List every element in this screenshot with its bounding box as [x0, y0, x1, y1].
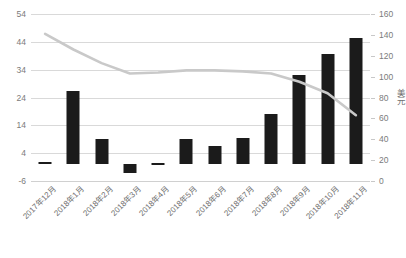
bar-slot — [88, 14, 116, 181]
y-axis-left-tick: 14 — [4, 121, 26, 130]
bar-slot — [172, 14, 200, 181]
y-axis-right-tick: 160 — [379, 10, 393, 19]
bar-slot — [229, 14, 257, 181]
x-axis-labels: 2017年12月2018年1月2018年2月2018年3月2018年4月2018… — [31, 183, 370, 258]
y-axis-right-tick: 40 — [379, 135, 388, 144]
y-axis-right-tick-mark — [371, 77, 375, 78]
bar-slot — [116, 14, 144, 181]
y-axis-left-tick: 44 — [4, 38, 26, 47]
y-axis-right-title: 美元 — [396, 89, 406, 107]
bar — [39, 162, 52, 165]
y-axis-left-tick: 4 — [4, 149, 26, 158]
y-axis-left-tick: 24 — [4, 94, 26, 103]
y-axis-right-tick-mark — [371, 14, 375, 15]
bar-slot — [31, 14, 59, 181]
bar-slot — [144, 14, 172, 181]
y-axis-right-tick-mark — [371, 56, 375, 57]
y-axis-right-tick: 60 — [379, 114, 388, 123]
bar — [293, 75, 306, 164]
bar — [321, 54, 334, 164]
y-axis-right-tick-mark — [371, 160, 375, 161]
y-axis-left-tick: -6 — [4, 177, 26, 186]
y-axis-right-tick-mark — [371, 118, 375, 119]
y-axis-right-tick-mark — [371, 35, 375, 36]
bar-slot — [257, 14, 285, 181]
bar-slot — [314, 14, 342, 181]
y-axis-left-tick: 34 — [4, 66, 26, 75]
y-axis-right-tick: 80 — [379, 94, 388, 103]
y-axis-right-tick: 100 — [379, 73, 393, 82]
y-axis-right-tick-mark — [371, 98, 375, 99]
bar — [349, 38, 362, 165]
y-axis-right-tick: 140 — [379, 31, 393, 40]
bar-slot — [201, 14, 229, 181]
y-axis-right-tick-mark — [371, 139, 375, 140]
bar-slot — [285, 14, 313, 181]
y-axis-left-tick: 54 — [4, 10, 26, 19]
y-axis-right-tick: 120 — [379, 52, 393, 61]
